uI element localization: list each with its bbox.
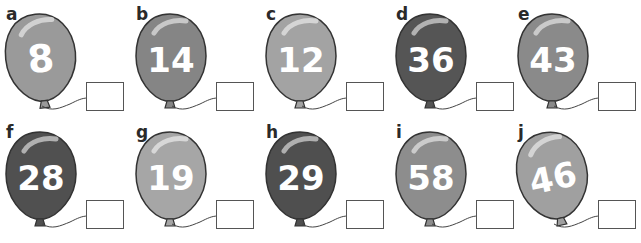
balloon-number: 58 xyxy=(407,158,454,198)
balloon-number: 36 xyxy=(407,40,454,80)
answer-box-e[interactable] xyxy=(598,82,636,111)
answer-box-f[interactable] xyxy=(86,200,124,229)
balloon-number: 19 xyxy=(147,158,194,198)
balloon-item-a: 8a xyxy=(0,0,128,122)
balloon-number: 28 xyxy=(17,158,64,198)
item-letter: d xyxy=(396,6,408,23)
balloon-number: 12 xyxy=(277,40,324,80)
answer-box-d[interactable] xyxy=(476,82,514,111)
balloon-item-j: 46j xyxy=(512,118,640,240)
item-letter: h xyxy=(266,124,278,141)
answer-box-c[interactable] xyxy=(346,82,384,111)
balloon-item-e: 43e xyxy=(512,0,640,122)
answer-box-j[interactable] xyxy=(598,200,636,229)
balloon-item-f: 28f xyxy=(0,118,128,240)
answer-box-h[interactable] xyxy=(346,200,384,229)
balloon-number: 14 xyxy=(147,40,194,80)
balloon-item-d: 36d xyxy=(390,0,518,122)
item-letter: i xyxy=(396,124,402,141)
balloon-item-i: 58i xyxy=(390,118,518,240)
balloon-item-b: 14b xyxy=(130,0,258,122)
item-letter: f xyxy=(6,124,13,141)
balloon-number: 43 xyxy=(529,40,576,80)
balloon-number: 29 xyxy=(277,158,324,198)
item-letter: b xyxy=(136,6,148,23)
answer-box-g[interactable] xyxy=(216,200,254,229)
balloon-item-h: 29h xyxy=(260,118,388,240)
answer-box-a[interactable] xyxy=(86,82,124,111)
balloon-item-c: 12c xyxy=(260,0,388,122)
item-letter: c xyxy=(266,6,276,23)
item-letter: a xyxy=(6,6,17,23)
balloon-item-g: 19g xyxy=(130,118,258,240)
item-letter: g xyxy=(136,124,148,141)
item-letter: e xyxy=(518,6,530,23)
item-letter: j xyxy=(518,124,524,141)
answer-box-b[interactable] xyxy=(216,82,254,111)
balloon-number: 8 xyxy=(25,36,56,83)
answer-box-i[interactable] xyxy=(476,200,514,229)
